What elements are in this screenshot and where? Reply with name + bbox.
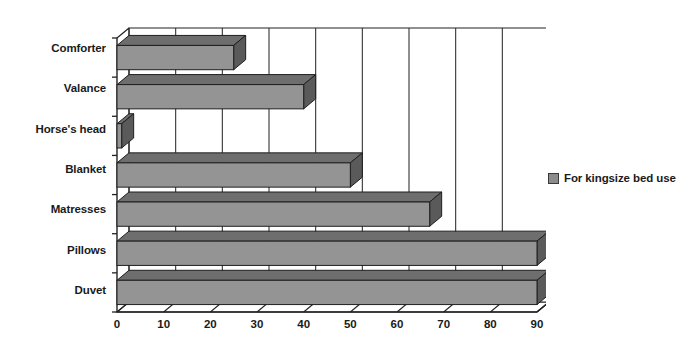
bar-valance (117, 75, 316, 109)
plot-svg (112, 20, 546, 320)
x-tick-label: 50 (344, 318, 357, 330)
bar-matresses (117, 192, 442, 226)
legend-label: For kingsize bed use (564, 172, 676, 184)
legend-swatch-icon (548, 173, 559, 184)
bar-comforter (117, 35, 246, 69)
category-label: Duvet (0, 270, 112, 310)
category-label: Horse's head (0, 109, 112, 149)
x-tick-label: 80 (484, 318, 497, 330)
category-label: Valance (0, 68, 112, 108)
x-tick-label: 20 (204, 318, 217, 330)
category-axis-labels: Comforter Valance Horse's head Blanket M… (0, 28, 112, 310)
bar-chart: Comforter Valance Horse's head Blanket M… (0, 0, 679, 356)
category-label: Blanket (0, 149, 112, 189)
bar-pillows (117, 231, 546, 265)
category-label: Comforter (0, 28, 112, 68)
x-tick-label: 40 (297, 318, 310, 330)
category-label: Pillows (0, 229, 112, 269)
x-tick-label: 70 (437, 318, 450, 330)
x-tick-label: 60 (391, 318, 404, 330)
x-tick-label: 0 (114, 318, 120, 330)
x-tick-label: 90 (531, 318, 544, 330)
legend: For kingsize bed use (548, 172, 676, 184)
x-tick-label: 10 (157, 318, 170, 330)
value-axis-labels: 0102030405060708090 (112, 318, 552, 338)
category-label: Matresses (0, 189, 112, 229)
x-tick-label: 30 (251, 318, 264, 330)
bar-blanket (117, 153, 362, 187)
bar-duvet (117, 270, 546, 304)
plot-area (112, 20, 546, 320)
